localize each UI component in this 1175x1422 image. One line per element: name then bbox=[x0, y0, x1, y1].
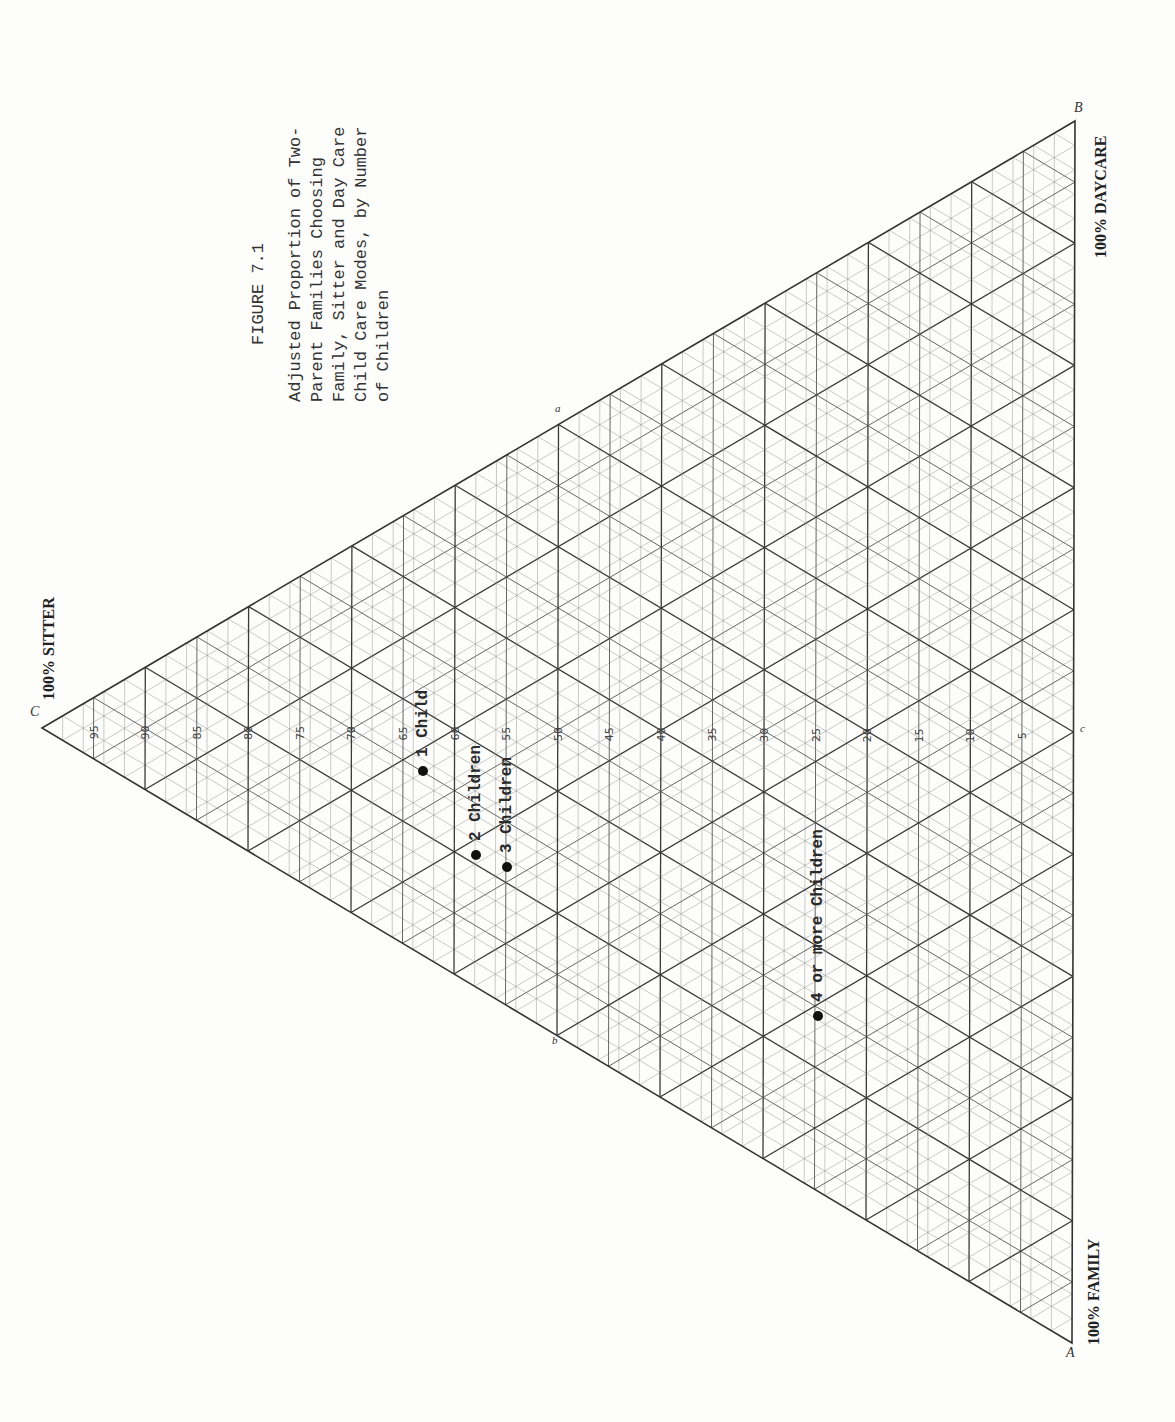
edge-label-c: c bbox=[1080, 722, 1085, 734]
svg-text:25: 25 bbox=[810, 728, 823, 742]
data-point-label: 1 Child bbox=[414, 690, 432, 757]
svg-text:80: 80 bbox=[242, 726, 255, 740]
data-point-label: 3 Children bbox=[498, 757, 516, 853]
svg-text:70: 70 bbox=[345, 726, 358, 740]
svg-text:50: 50 bbox=[552, 727, 565, 741]
svg-text:10: 10 bbox=[964, 729, 977, 743]
edge-label-a: a bbox=[555, 402, 561, 414]
vertex-letter-b: B bbox=[1074, 100, 1083, 116]
vertex-letter-a: A bbox=[1066, 1345, 1075, 1361]
svg-text:5: 5 bbox=[1016, 732, 1029, 739]
caption-line: of Children bbox=[374, 290, 393, 402]
svg-text:55: 55 bbox=[500, 727, 513, 741]
svg-text:20: 20 bbox=[861, 728, 874, 742]
svg-text:30: 30 bbox=[758, 728, 771, 742]
data-point bbox=[813, 1011, 823, 1021]
data-point bbox=[471, 850, 481, 860]
data-point-label: 2 Children bbox=[467, 745, 485, 841]
svg-text:35: 35 bbox=[706, 728, 719, 742]
vertex-label-daycare: 100% DAYCARE bbox=[1092, 135, 1110, 258]
svg-text:45: 45 bbox=[603, 727, 616, 741]
svg-text:95: 95 bbox=[88, 725, 101, 739]
svg-text:60: 60 bbox=[449, 727, 462, 741]
data-point bbox=[502, 862, 512, 872]
caption-line: Family, Sitter and Day Care bbox=[330, 127, 349, 402]
caption-line: Child Care Modes, by Number bbox=[352, 127, 371, 402]
vertex-letter-c: C bbox=[30, 704, 39, 720]
edge-label-b: b bbox=[552, 1034, 558, 1046]
svg-text:15: 15 bbox=[913, 728, 926, 742]
svg-text:75: 75 bbox=[294, 726, 307, 740]
ternary-chart: 9590858075706560555045403530252015105 1 … bbox=[0, 0, 1175, 1422]
svg-text:65: 65 bbox=[397, 726, 410, 740]
vertex-label-sitter: 100% SITTER bbox=[40, 597, 58, 700]
svg-text:85: 85 bbox=[191, 726, 204, 740]
caption-line: Parent Families Choosing bbox=[308, 157, 327, 402]
data-point bbox=[418, 766, 428, 776]
figure-number: FIGURE 7.1 bbox=[249, 243, 268, 345]
vertex-label-family: 100% FAMILY bbox=[1085, 1239, 1103, 1345]
data-point-label: 4 or more Children bbox=[809, 829, 827, 1002]
svg-text:90: 90 bbox=[139, 725, 152, 739]
svg-text:40: 40 bbox=[655, 727, 668, 741]
caption-line: Adjusted Proportion of Two- bbox=[286, 127, 305, 402]
